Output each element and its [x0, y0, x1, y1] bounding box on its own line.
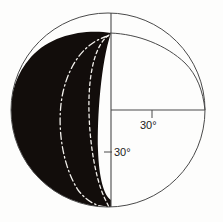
diagram-canvas [0, 0, 223, 222]
horizontal-axis-label-30: 30° [140, 120, 157, 131]
terminator-diagram-figure: 30° 30° [0, 0, 223, 222]
upper-latitude-arc [110, 33, 205, 110]
vertical-axis-label-30: 30° [114, 147, 131, 158]
